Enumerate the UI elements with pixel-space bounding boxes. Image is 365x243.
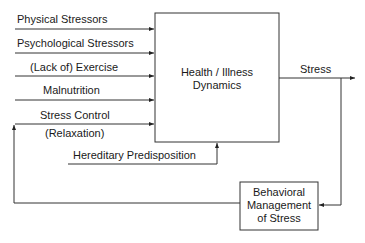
input-label-stress-control: Stress Control: [40, 109, 110, 121]
hereditary-label: Hereditary Predisposition: [73, 149, 196, 161]
stress-control-sublabel: (Relaxation): [45, 127, 104, 139]
input-label-psychological-stressors: Psychological Stressors: [17, 37, 134, 49]
input-label-exercise: (Lack of) Exercise: [30, 61, 118, 73]
input-label-malnutrition: Malnutrition: [43, 84, 100, 96]
health-illness-label: Health / Illness Dynamics: [155, 66, 279, 92]
stress-output-label: Stress: [300, 63, 331, 75]
diagram: Physical Stressors Psychological Stresso…: [0, 0, 365, 243]
input-label-physical-stressors: Physical Stressors: [17, 13, 107, 25]
behavioral-management-label: Behavioral Management of Stress: [240, 186, 318, 225]
